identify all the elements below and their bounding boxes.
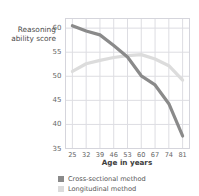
legend-swatch-icon [58,176,64,182]
legend-item[interactable]: Cross-sectional method [58,174,198,183]
legend-item-label: Longitudinal method [68,185,136,193]
y-axis-tick-label: 40 [46,120,62,128]
legend-item-label: Cross-sectional method [68,175,146,183]
legend-item[interactable]: Longitudinal method [58,184,198,193]
y-axis-tick-label: 55 [46,48,62,56]
y-axis-tick-label: 45 [46,96,62,104]
chart-legend: Cross-sectional methodLongitudinal metho… [58,174,198,194]
reasoning-ability-chart: Reasoning ability score 354045505560 253… [0,0,199,196]
y-axis-tick-label: 35 [46,145,62,153]
x-axis-title: Age in years [63,158,191,167]
y-axis-tick-label: 50 [46,72,62,80]
legend-swatch-icon [58,186,64,192]
y-axis-tick-label: 60 [46,24,62,32]
gridlines [66,19,190,149]
